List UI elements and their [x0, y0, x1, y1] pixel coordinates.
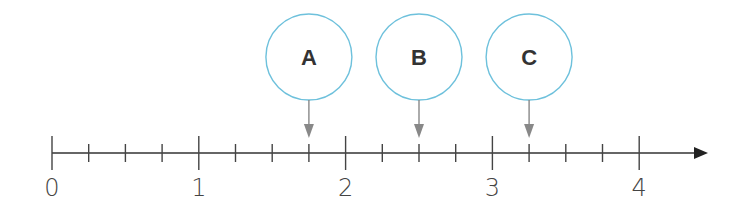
- marker-b: B: [376, 14, 462, 138]
- tick-label: 1: [191, 174, 206, 202]
- marker-label: A: [301, 45, 317, 70]
- tick-label: 0: [44, 174, 59, 202]
- tick-label: 3: [485, 174, 500, 202]
- tick-label: 4: [632, 174, 647, 202]
- marker-label: C: [521, 45, 537, 70]
- number-line-diagram: 01234 ABC: [0, 0, 738, 208]
- arrow-down-icon: [414, 124, 424, 138]
- tick-labels: 01234: [44, 174, 646, 202]
- axis-arrowhead-icon: [694, 147, 708, 159]
- number-line-svg: 01234 ABC: [0, 0, 738, 208]
- markers: ABC: [266, 14, 572, 138]
- arrow-down-icon: [524, 124, 534, 138]
- arrow-down-icon: [304, 124, 314, 138]
- marker-a: A: [266, 14, 352, 138]
- marker-c: C: [486, 14, 572, 138]
- marker-label: B: [411, 45, 427, 70]
- tick-label: 2: [338, 174, 353, 202]
